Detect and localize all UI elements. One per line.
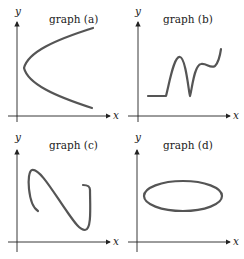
x-axis-label: x xyxy=(233,235,239,247)
x-axis-label: x xyxy=(113,109,119,121)
panel-graph-b: y x graph (b) xyxy=(128,5,239,122)
graphs-figure: y x graph (a) y x graph (b) y x graph (c… xyxy=(0,0,244,259)
y-axis-label: y xyxy=(14,131,22,143)
graph-title: graph (c) xyxy=(49,139,98,151)
y-axis-label: y xyxy=(134,131,142,143)
panel-graph-a: y x graph (a) xyxy=(8,5,119,122)
x-axis-label: x xyxy=(233,109,239,121)
curve-d-ellipse xyxy=(144,181,222,211)
curve-a xyxy=(24,28,93,108)
graph-title: graph (a) xyxy=(49,13,98,25)
curve-c xyxy=(29,170,91,230)
y-axis-label: y xyxy=(134,5,142,17)
y-axis-label: y xyxy=(14,5,22,17)
x-axis-label: x xyxy=(113,235,119,247)
panel-graph-d: y x graph (d) xyxy=(128,131,239,252)
panel-graph-c: y x graph (c) xyxy=(8,131,119,252)
curve-b xyxy=(148,49,221,96)
graph-title: graph (b) xyxy=(163,13,213,25)
graph-title: graph (d) xyxy=(163,139,213,151)
